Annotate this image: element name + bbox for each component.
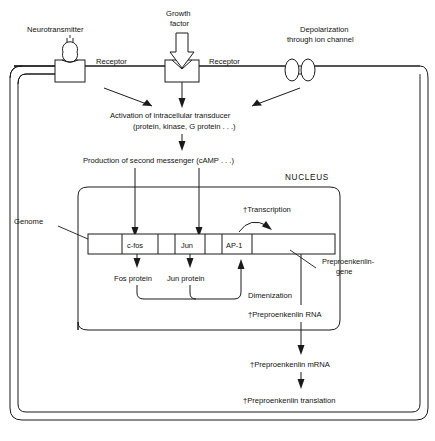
preproenkenlin-gene-label-line1: Preproenkenlin- (322, 257, 375, 266)
jun-protein-label: Jun protein (167, 274, 205, 283)
nucleus-label: NUCLEUS (285, 173, 329, 182)
membrane-left-stub (10, 66, 55, 84)
preproenkenlin-gene-label-line2: gene (336, 267, 352, 276)
arrow-growthfactor-to-activation (179, 82, 186, 108)
genome-bar-outline (88, 234, 335, 254)
ion-channel-group (285, 59, 315, 81)
arrow-neurotransmitter-to-activation (104, 88, 152, 106)
arrow-transcription-curve (239, 221, 272, 232)
ion-channel-ellipse-left-icon (285, 59, 299, 81)
neurotransmitter-receptor-group (55, 38, 85, 82)
dimerization-label: Dimenization (248, 291, 292, 300)
arrow-mrna-to-translation (298, 372, 305, 389)
preproenkenlin-translation-label: †Preproenkenlin translation (243, 396, 335, 405)
preproenkenlin-mrna-label: †Preproenkenlin mRNA (250, 360, 331, 369)
arrow-activation-to-second-messenger (179, 134, 186, 151)
receptor-label-neurotransmitter: Receptor (96, 57, 127, 66)
genome-gene-label-cfos: c-fos (127, 241, 143, 250)
arrow-rna-export (298, 322, 305, 355)
transcription-label: †Transcription (243, 205, 291, 214)
arrow-cfos-to-fos-protein (134, 254, 141, 268)
receptor-box-neurotransmitter (55, 60, 85, 82)
growth-factor-label-line1: Growth (166, 9, 190, 18)
activation-label-line1: Activation of intracellular transducer (110, 111, 231, 120)
genome-bar: c-fos Jun AP-1 (88, 234, 335, 254)
genome-gene-label-ap1: AP-1 (226, 241, 242, 250)
arrow-ionchannel-to-activation (252, 88, 300, 106)
depolarization-label-line1: Depolarization (300, 25, 349, 34)
arrow-jun-to-jun-protein (187, 254, 194, 268)
genome-gene-label-jun: Jun (181, 241, 193, 250)
preproenkenlin-rna-label: †Preproenkenlin RNA (248, 310, 322, 319)
second-messenger-label: Production of second messenger (cAMP . .… (83, 156, 234, 165)
fos-protein-label: Fos protein (114, 274, 152, 283)
ion-channel-ellipse-right-icon (301, 59, 315, 81)
neurotransmitter-label: Neurotransmitter (27, 25, 84, 34)
signal-transduction-diagram: Neurotransmitter Receptor Growth factor … (0, 0, 435, 441)
second-messenger-bus (132, 168, 203, 237)
neurotransmitter-ligand-ball-icon (63, 42, 78, 62)
receptor-label-growth-factor: Receptor (209, 57, 240, 66)
depolarization-label-line2: through ion channel (287, 35, 354, 44)
genome-label: Genome (14, 217, 43, 226)
growth-factor-label-line2: factor (170, 19, 189, 28)
activation-label-line2: (protein, kinase, G protein . . .) (133, 122, 236, 131)
growth-factor-receptor-group (165, 33, 199, 82)
